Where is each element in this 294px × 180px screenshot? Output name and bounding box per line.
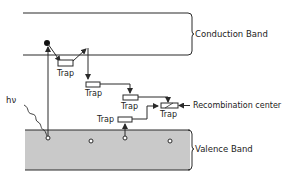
band-diagram: Conduction Band Valence Band hν Trap Tra…: [0, 0, 294, 180]
trap-3: [123, 95, 138, 100]
trap-2-label: Trap: [84, 89, 102, 98]
trap-1-label: Trap: [56, 69, 74, 78]
trap-1: [58, 60, 73, 66]
trap-5: [118, 117, 132, 122]
photon-label: hν: [6, 95, 16, 105]
trap-4-label: Trap: [159, 110, 177, 119]
recombination-center-label: Recombination center: [193, 101, 282, 110]
conduction-band: [23, 13, 194, 55]
trap-3-label: Trap: [120, 102, 138, 111]
trap-5-label: Trap: [96, 115, 114, 124]
trap-2: [86, 82, 100, 87]
valence-band-label: Valence Band: [195, 144, 253, 154]
valence-band: [25, 130, 194, 170]
conduction-band-label: Conduction Band: [195, 29, 268, 39]
